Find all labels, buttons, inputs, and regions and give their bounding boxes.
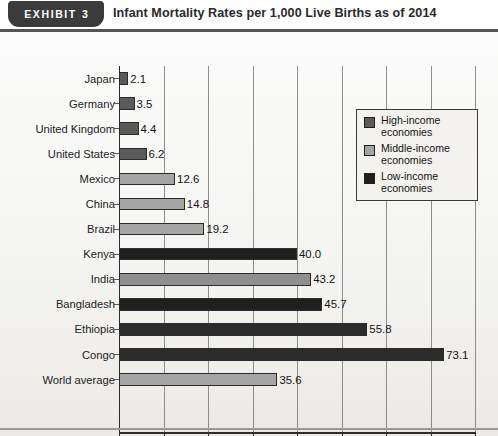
category-label: World average: [1, 374, 115, 386]
x-axis-tick: [342, 432, 343, 436]
legend-label-secondary: economies: [381, 183, 438, 195]
bar: [119, 173, 175, 186]
legend-label-primary: High-income: [381, 115, 440, 127]
bar-container: 6.2: [119, 141, 164, 166]
bar-row: Congo73.1: [0, 342, 498, 367]
bar-container: 43.2: [119, 267, 335, 292]
category-label: China: [1, 198, 115, 210]
page-title: Infant Mortality Rates per 1,000 Live Bi…: [113, 6, 437, 20]
bar-row: Brazil19.2: [0, 217, 498, 242]
legend-label-secondary: economies: [381, 155, 450, 167]
chart-legend: High-incomeeconomiesMiddle-incomeeconomi…: [356, 109, 478, 201]
category-label: Germany: [1, 98, 115, 110]
bar-value-label: 73.1: [446, 349, 468, 361]
bar: [119, 198, 185, 211]
x-axis: 01020304050607080: [0, 432, 498, 436]
bar-container: 12.6: [119, 166, 199, 191]
bar: [119, 298, 322, 311]
bar: [119, 122, 139, 135]
legend-item: High-incomeeconomies: [364, 115, 471, 138]
bar-value-label: 6.2: [149, 148, 165, 160]
legend-label: Middle-incomeeconomies: [381, 143, 450, 166]
bar-value-label: 3.5: [137, 98, 153, 110]
exhibit-figure: EXHIBIT 3 Infant Mortality Rates per 1,0…: [0, 0, 498, 436]
legend-swatch: [364, 173, 375, 184]
legend-label: High-incomeeconomies: [381, 115, 440, 138]
bar-row: Ethiopia55.8: [0, 317, 498, 342]
bar: [119, 72, 128, 85]
bar-value-label: 2.1: [130, 73, 146, 85]
bar: [119, 323, 367, 336]
bar-value-label: 55.8: [369, 323, 391, 335]
bar-value-label: 19.2: [206, 223, 228, 235]
exhibit-header: EXHIBIT 3 Infant Mortality Rates per 1,0…: [0, 0, 498, 29]
legend-item: Low-incomeeconomies: [364, 171, 471, 194]
bar: [119, 97, 135, 110]
bar-container: 40.0: [119, 242, 321, 267]
bar-value-label: 14.8: [187, 198, 209, 210]
x-axis-tick: [253, 432, 254, 436]
x-axis-tick: [475, 432, 476, 436]
exhibit-badge-number: 3: [82, 8, 88, 20]
bar-value-label: 4.4: [141, 123, 157, 135]
bar-container: 19.2: [119, 217, 229, 242]
legend-swatch: [364, 117, 375, 128]
bar-value-label: 43.2: [313, 273, 335, 285]
category-label: Japan: [1, 73, 115, 85]
bar-row: Bangladesh45.7: [0, 292, 498, 317]
x-axis-tick: [431, 432, 432, 436]
bar-container: 3.5: [119, 91, 152, 116]
category-label: Congo: [1, 349, 115, 361]
category-label: India: [1, 273, 115, 285]
x-axis-tick: [297, 432, 298, 436]
category-label: United States: [1, 148, 115, 160]
footer-divider: [0, 428, 498, 430]
bar: [119, 248, 297, 261]
bar-container: 14.8: [119, 191, 209, 216]
legend-item: Middle-incomeeconomies: [364, 143, 471, 166]
bar-row: Kenya40.0: [0, 242, 498, 267]
category-label: Bangladesh: [1, 298, 115, 310]
x-axis-tick: [386, 432, 387, 436]
bar-container: 73.1: [119, 342, 468, 367]
bar: [119, 148, 147, 161]
bar: [119, 348, 444, 361]
bar-row: India43.2: [0, 267, 498, 292]
bar-container: 4.4: [119, 116, 156, 141]
bar-row: Japan2.1: [0, 66, 498, 91]
bar-container: 35.6: [119, 367, 302, 392]
x-axis-tick: [164, 432, 165, 436]
legend-swatch: [364, 145, 375, 156]
bar-container: 55.8: [119, 317, 391, 342]
category-label: Kenya: [1, 248, 115, 260]
legend-label-secondary: economies: [381, 127, 440, 139]
exhibit-badge-label: EXHIBIT: [24, 8, 77, 20]
x-axis-tick: [208, 432, 209, 436]
legend-label: Low-incomeeconomies: [381, 171, 438, 194]
category-label: Mexico: [1, 173, 115, 185]
bar-value-label: 40.0: [299, 248, 321, 260]
bar: [119, 223, 204, 236]
category-label: United Kingdom: [1, 123, 115, 135]
bar-row: World average35.6: [0, 367, 498, 392]
bar-container: 45.7: [119, 292, 347, 317]
bar: [119, 373, 277, 386]
bar-value-label: 35.6: [279, 374, 301, 386]
category-label: Brazil: [1, 223, 115, 235]
chart-canvas: Japan2.1Germany3.5United Kingdom4.4Unite…: [0, 32, 498, 436]
exhibit-badge: EXHIBIT 3: [8, 1, 104, 27]
x-axis-tick: [119, 432, 120, 436]
bar-value-label: 45.7: [324, 298, 346, 310]
bar: [119, 273, 311, 286]
bar-container: 2.1: [119, 66, 146, 91]
bar-value-label: 12.6: [177, 173, 199, 185]
category-label: Ethiopia: [1, 323, 115, 335]
